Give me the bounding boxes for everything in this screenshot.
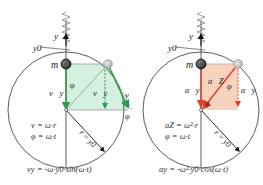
svg-text:m: m — [51, 59, 58, 70]
svg-text:y: y — [53, 31, 58, 41]
svg-text:φ: φ — [205, 98, 210, 108]
ghost-mass-icon — [104, 60, 113, 69]
svg-text:ay = -ω²·y0·cos(ω·t): ay = -ω²·y0·cos(ω·t) — [159, 164, 228, 174]
svg-text:y0: y0 — [167, 43, 177, 53]
svg-text:v⃗: v⃗ — [125, 90, 135, 100]
ghost-mass-icon — [234, 60, 243, 69]
svg-text:v⃗y: v⃗y — [93, 88, 107, 98]
svg-text:φ: φ — [227, 81, 232, 91]
svg-text:r = y0: r = y0 — [213, 128, 233, 149]
svg-text:v⃗y: v⃗y — [49, 88, 63, 98]
svg-text:φ = ω·t: φ = ω·t — [31, 131, 57, 141]
physics-diagram: y y0 m v⃗y φ v⃗y v⃗ φ r = y0 v = ω·r φ =… — [0, 0, 263, 185]
svg-text:a⃗y: a⃗y — [185, 85, 200, 95]
svg-text:r = y0: r = y0 — [78, 128, 98, 149]
svg-text:y: y — [188, 31, 193, 41]
svg-text:a⃗y: a⃗y — [241, 85, 256, 95]
right-acceleration-panel: y y0 m a⃗y a⃗Z φ a⃗y φ r = y0 aZ = ω²·r … — [143, 12, 259, 174]
svg-text:m: m — [186, 59, 193, 70]
svg-text:φ: φ — [125, 111, 130, 121]
svg-text:v = ω·r: v = ω·r — [31, 120, 57, 130]
svg-text:φ: φ — [70, 80, 75, 90]
left-velocity-panel: y y0 m v⃗y φ v⃗y v⃗ φ r = y0 v = ω·r φ =… — [8, 12, 135, 174]
svg-text:vy = -ω·y0·sin(ω·t): vy = -ω·y0·sin(ω·t) — [27, 164, 92, 174]
svg-text:aZ = ω²·r: aZ = ω²·r — [165, 120, 199, 130]
svg-text:φ = ω·t: φ = ω·t — [165, 131, 191, 141]
svg-text:a⃗Z: a⃗Z — [208, 76, 224, 86]
svg-text:y0: y0 — [32, 43, 42, 53]
